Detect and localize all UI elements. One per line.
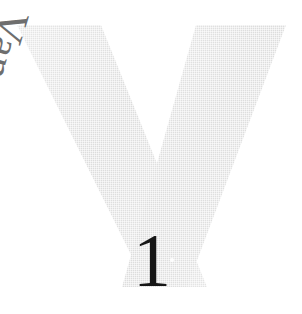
scan-speck xyxy=(170,258,174,262)
scanned-page: Van 1 xyxy=(0,0,302,314)
page-number: 1 xyxy=(133,222,171,298)
